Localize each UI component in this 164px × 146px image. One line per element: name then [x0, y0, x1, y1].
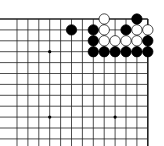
black-stone[interactable]: [132, 47, 142, 57]
black-stone[interactable]: [88, 47, 98, 57]
white-stone[interactable]: [121, 36, 131, 46]
go-board[interactable]: [0, 0, 164, 146]
star-point: [48, 50, 51, 53]
white-stone[interactable]: [110, 36, 120, 46]
black-stone[interactable]: [110, 47, 120, 57]
star-point: [114, 116, 117, 119]
star-point: [48, 116, 51, 119]
white-stone[interactable]: [99, 36, 109, 46]
black-stone[interactable]: [66, 25, 76, 35]
black-stone[interactable]: [143, 47, 153, 57]
white-stone[interactable]: [99, 14, 109, 24]
black-stone[interactable]: [143, 36, 153, 46]
black-stone[interactable]: [132, 14, 142, 24]
white-stone[interactable]: [99, 25, 109, 35]
black-stone[interactable]: [88, 25, 98, 35]
white-stone[interactable]: [132, 25, 142, 35]
black-stone[interactable]: [88, 36, 98, 46]
black-stone[interactable]: [121, 47, 131, 57]
white-stone[interactable]: [143, 25, 153, 35]
black-stone[interactable]: [121, 25, 131, 35]
white-stone[interactable]: [132, 36, 142, 46]
black-stone[interactable]: [99, 47, 109, 57]
